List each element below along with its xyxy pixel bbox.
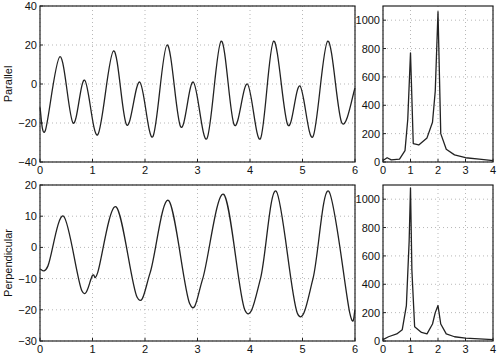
x-tick-label: 4 — [247, 164, 253, 176]
y-axis-label: Parallel — [2, 66, 14, 103]
perpendicular-spectrum-axes: 0123402004006008001000 — [356, 185, 497, 355]
y-tick-label: −20 — [18, 117, 37, 129]
x-tick-label: 2 — [435, 343, 441, 355]
x-tick-label: 1 — [407, 164, 413, 176]
y-tick-label: −30 — [18, 335, 37, 347]
y-tick-label: −20 — [18, 304, 37, 316]
y-tick-label: 800 — [362, 222, 380, 234]
y-tick-label: 400 — [362, 99, 380, 111]
y-tick-label: 20 — [25, 179, 37, 191]
x-tick-label: 3 — [194, 343, 200, 355]
y-tick-label: 800 — [362, 43, 380, 55]
x-tick-label: 6 — [352, 164, 358, 176]
x-tick-label: 5 — [299, 343, 305, 355]
x-tick-label: 4 — [490, 343, 496, 355]
x-tick-label: 2 — [142, 164, 148, 176]
figure: 0123456−40−2002040Parallel01234020040060… — [0, 0, 498, 359]
x-tick-label: 2 — [142, 343, 148, 355]
x-tick-label: 0 — [380, 343, 386, 355]
x-tick-label: 2 — [435, 164, 441, 176]
y-tick-label: 1000 — [356, 14, 380, 26]
x-tick-label: 3 — [462, 164, 468, 176]
x-tick-label: 1 — [407, 343, 413, 355]
y-tick-label: 1000 — [356, 193, 380, 205]
y-tick-label: 0 — [374, 156, 380, 168]
y-tick-label: 200 — [362, 128, 380, 140]
parallel-spectrum-axes: 0123402004006008001000 — [356, 6, 497, 176]
y-axis-label: Perpendicular — [2, 229, 14, 297]
y-tick-label: 0 — [374, 335, 380, 347]
y-tick-label: 40 — [25, 0, 37, 12]
y-tick-label: 0 — [31, 241, 37, 253]
y-tick-label: 600 — [362, 71, 380, 83]
x-tick-label: 4 — [247, 343, 253, 355]
y-tick-label: 0 — [31, 78, 37, 90]
perpendicular-spectrum-line — [383, 188, 493, 340]
x-tick-label: 1 — [89, 164, 95, 176]
x-tick-label: 4 — [490, 164, 496, 176]
x-tick-label: 0 — [37, 343, 43, 355]
x-tick-label: 0 — [37, 164, 43, 176]
y-tick-label: 400 — [362, 278, 380, 290]
parallel-time-axes: 0123456−40−2002040Parallel — [2, 0, 358, 176]
y-tick-label: 200 — [362, 307, 380, 319]
y-tick-label: −10 — [18, 273, 37, 285]
x-tick-label: 0 — [380, 164, 386, 176]
x-tick-label: 6 — [352, 343, 358, 355]
y-tick-label: 20 — [25, 39, 37, 51]
x-tick-label: 1 — [89, 343, 95, 355]
y-tick-label: 600 — [362, 250, 380, 262]
x-tick-label: 3 — [462, 343, 468, 355]
x-tick-label: 3 — [194, 164, 200, 176]
y-tick-label: 10 — [25, 210, 37, 222]
x-tick-label: 5 — [299, 164, 305, 176]
y-tick-label: −40 — [18, 156, 37, 168]
perpendicular-time-axes: 0123456−30−20−1001020Perpendicular — [2, 179, 358, 355]
